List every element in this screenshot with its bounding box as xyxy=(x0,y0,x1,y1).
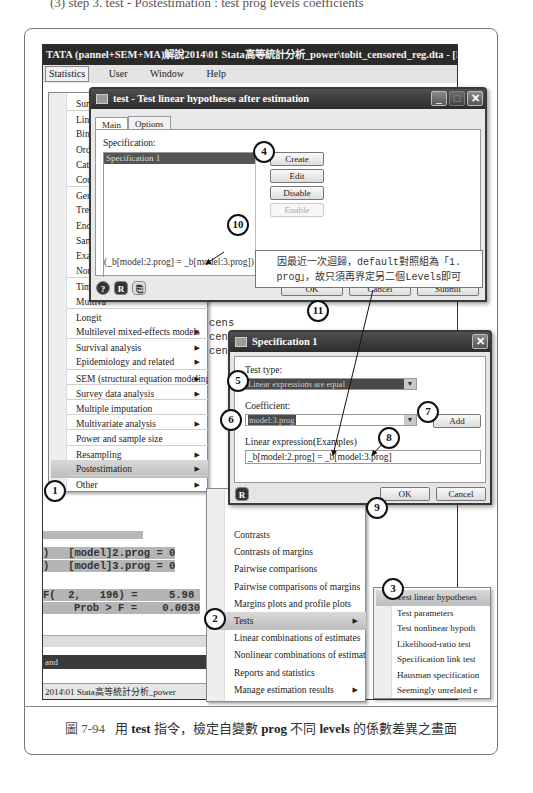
constraint-1-text: [model]2.prog = 0 xyxy=(68,547,175,559)
disable-button[interactable]: Disable xyxy=(270,186,324,200)
chevron-down-icon[interactable]: ▼ xyxy=(404,379,416,389)
menu-item-pairwise-comparisons[interactable]: Pairwise comparisons xyxy=(225,560,366,578)
linear-expression-input[interactable]: _b[model:2.prog] = _b[model:3.prog] xyxy=(245,450,481,464)
edit-button[interactable]: Edit xyxy=(270,169,324,183)
coefficient-label: Coefficient: xyxy=(245,401,290,411)
menu-item-seemingly-unrelated-e[interactable]: Seemingly unrelated e xyxy=(392,683,491,699)
step-badge-2: 2 xyxy=(204,608,226,630)
coefficient-select[interactable]: model:3.prog ▼ xyxy=(245,414,417,426)
menu-item-label: Survival analysis xyxy=(76,343,141,353)
submenu-arrow-icon: ▶ xyxy=(353,612,358,630)
create-button[interactable]: Create xyxy=(270,152,324,166)
test-type-label: Test type: xyxy=(245,365,282,375)
results-cens-2: cen xyxy=(209,331,228,343)
menu-item-label: Multivariate analysis xyxy=(76,419,156,429)
step-badge-11: 11 xyxy=(307,300,329,322)
dialog-app-icon xyxy=(96,94,108,104)
test-dialog-title: test - Test linear hypotheses after esti… xyxy=(113,93,309,104)
help-icon[interactable]: ? xyxy=(96,281,110,295)
menu-item-contrasts-of-margins[interactable]: Contrasts of margins xyxy=(225,543,366,561)
pane-divider[interactable] xyxy=(43,635,208,647)
menu-item-reports-and-statistics[interactable]: Reports and statistics xyxy=(225,664,366,682)
menu-item-other[interactable]: Other▶ xyxy=(67,475,208,493)
spec-ok-button[interactable]: OK xyxy=(380,487,430,501)
postestimation-submenu: ContrastsContrasts of marginsPairwise co… xyxy=(206,488,366,702)
spec-dialog-titlebar[interactable]: Specification 1 ✕ xyxy=(230,332,490,352)
step-badge-1: 1 xyxy=(44,480,66,502)
menu-statistics[interactable]: Statistics xyxy=(45,66,89,82)
menu-item-specification-link-test[interactable]: Specification link test xyxy=(392,652,491,668)
menu-item-pairwise-comparisons-of-margins[interactable]: Pairwise comparisons of margins xyxy=(225,578,366,596)
minimize-button[interactable]: _ xyxy=(431,91,447,106)
submenu-arrow-icon: ▶ xyxy=(195,476,200,493)
annotation-callout: 因最近一次迴歸，default對照組為「1. prog」，故只須再界定另二個Le… xyxy=(255,250,483,288)
close-button[interactable]: ✕ xyxy=(467,91,483,106)
test-type-select[interactable]: Linear expressions are equal ▼ xyxy=(245,378,417,390)
figure-number: 圖 7-94 xyxy=(65,721,105,736)
menu-item-label: Multilevel mixed-effects models xyxy=(76,327,200,337)
menu-item-label: Survey data analysis xyxy=(76,389,154,399)
window-title: TATA (pannel+SEM+MA)解說2014\01 Stata高等統計分… xyxy=(43,45,457,65)
menu-item-linear-combinations-of-estimates[interactable]: Linear combinations of estimates xyxy=(225,629,366,647)
callout-line-2: prog」，故只須再界定另二個Levels即可 xyxy=(256,270,482,285)
tests-submenu: Test linear hypothesesTest parametersTes… xyxy=(373,587,491,699)
examples-link[interactable]: (Examples) xyxy=(313,437,357,447)
menu-item-label: Likelihood-ratio test xyxy=(397,639,471,649)
caption-variable: prog xyxy=(261,721,287,736)
reset-icon[interactable]: R xyxy=(114,281,128,295)
close-button[interactable]: ✕ xyxy=(472,334,488,349)
status-bar-path: 2014\01 Stata高等統計分析_power xyxy=(43,683,208,699)
menu-item-label: SEM (structural equation modeling) xyxy=(76,374,208,384)
menu-item-label: Hausman specification xyxy=(397,670,479,680)
menu-user[interactable]: User xyxy=(106,65,131,83)
test-type-value: Linear expressions are equal xyxy=(246,379,416,389)
menu-item-label: Test parameters xyxy=(397,608,454,618)
menu-item-label: Linear combinations of estimates xyxy=(234,633,360,643)
add-button[interactable]: Add xyxy=(433,414,481,428)
menu-item-label: Postestimation xyxy=(76,464,132,474)
menu-item-manage-estimation-results[interactable]: Manage estimation results▶ xyxy=(225,681,366,699)
results-cens-3: cen xyxy=(209,345,228,357)
menu-help[interactable]: Help xyxy=(204,65,229,83)
menu-item-nonlinear-combinations-of-estimates[interactable]: Nonlinear combinations of estimates xyxy=(225,646,366,664)
menu-item-margins-plots-and-profile-plots[interactable]: Margins plots and profile plots xyxy=(225,595,366,613)
spec-dialog-body: Test type: Linear expressions are equal … xyxy=(234,356,486,483)
specification-label: Specification: xyxy=(103,138,156,148)
figure-caption: 圖 7-94 用 test 指令，檢定自變數 prog 不同 levels 的係… xyxy=(24,718,498,737)
menu-item-label: Specification link test xyxy=(397,654,475,664)
menu-item-tests[interactable]: Tests▶ xyxy=(209,612,366,630)
menu-item-label: Epidemiology and related xyxy=(76,357,174,367)
results-partial-line xyxy=(43,531,143,539)
caption-levels: levels xyxy=(319,721,349,736)
menu-gutter xyxy=(49,93,67,491)
menu-item-label: Nonlinear combinations of estimates xyxy=(234,650,366,660)
maximize-button[interactable]: □ xyxy=(449,91,465,106)
step-badge-5: 5 xyxy=(227,370,249,392)
specification-dialog: Specification 1 ✕ Test type: Linear expr… xyxy=(228,330,492,505)
menu-item-label: Contrasts of margins xyxy=(234,547,313,557)
caption-text: 的係數差異之畫面 xyxy=(353,721,457,736)
menu-item-likelihood-ratio-test[interactable]: Likelihood-ratio test xyxy=(392,637,491,653)
menu-item-test-nonlinear-hypoth[interactable]: Test nonlinear hypoth xyxy=(392,621,491,637)
linear-expression-label: Linear expression: xyxy=(245,437,315,447)
menu-item-contrasts[interactable]: Contrasts xyxy=(225,526,366,544)
test-dialog-titlebar[interactable]: test - Test linear hypotheses after esti… xyxy=(91,89,485,109)
menu-item-label: Reports and statistics xyxy=(234,668,315,678)
menu-item-test-parameters[interactable]: Test parameters xyxy=(392,606,491,622)
copy-icon[interactable]: ⎘ xyxy=(132,281,146,295)
constraint-2-text: [model]3.prog = 0 xyxy=(68,560,175,572)
constraint-1-prefix: ) xyxy=(43,547,49,559)
menu-item-label: Other xyxy=(76,480,98,490)
caption-divider xyxy=(24,706,498,707)
step-badge-7: 7 xyxy=(417,401,439,423)
specification-list-item[interactable]: Specification 1 xyxy=(104,153,255,164)
chevron-down-icon[interactable]: ▼ xyxy=(404,415,416,425)
constraint-2: ) [model]3.prog = 0 xyxy=(43,560,175,572)
spec-cancel-button[interactable]: Cancel xyxy=(436,487,486,501)
dialog-app-icon xyxy=(235,337,247,347)
menu-item-label: Power and sample size xyxy=(76,434,163,444)
menu-window[interactable]: Window xyxy=(147,65,187,83)
caption-text: 指令，檢定自變數 xyxy=(154,721,258,736)
menu-item-hausman-specification[interactable]: Hausman specification xyxy=(392,668,491,684)
reset-icon[interactable]: R xyxy=(235,487,249,501)
